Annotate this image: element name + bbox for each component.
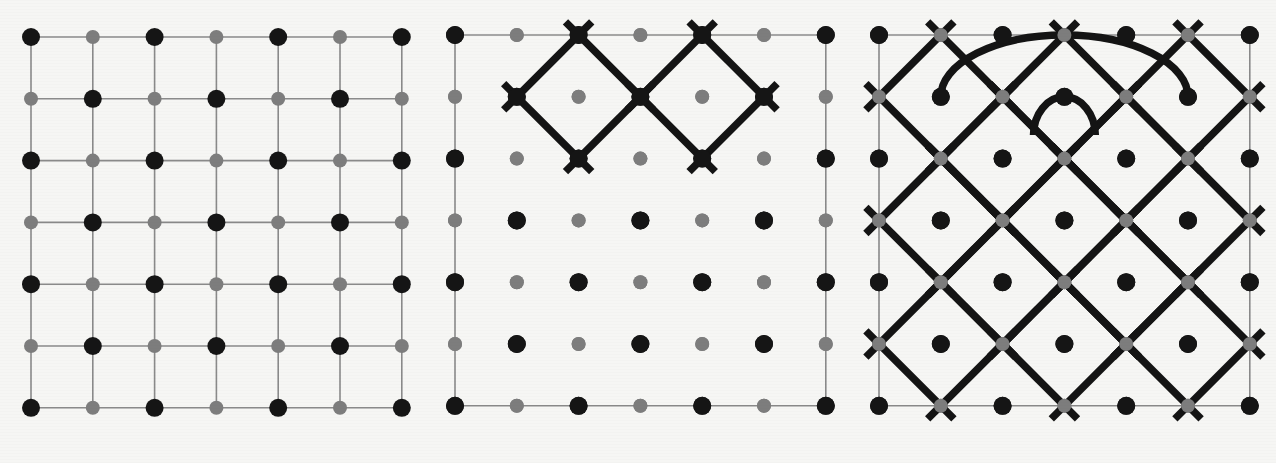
- black-vertex-overlay: [1117, 150, 1135, 168]
- black-vertex-overlay: [1241, 397, 1259, 415]
- gray-vertex: [86, 401, 100, 415]
- gray-vertex-overlay: [1243, 90, 1257, 104]
- gray-vertex-overlay: [633, 275, 647, 289]
- gray-vertex-overlay: [819, 213, 833, 227]
- black-vertex-overlay: [446, 150, 464, 168]
- gray-vertex: [333, 30, 347, 44]
- gray-vertex: [271, 339, 285, 353]
- gray-vertex-overlay: [1181, 399, 1195, 413]
- panel-dense-lattice-with-arcs: [850, 0, 1276, 463]
- black-vertex-overlay: [1117, 273, 1135, 291]
- black-vertex-overlay: [693, 150, 711, 168]
- black-vertex-overlay: [817, 150, 835, 168]
- black-vertex-overlay: [1241, 26, 1259, 44]
- gray-vertex-overlay: [572, 213, 586, 227]
- gray-vertex-overlay: [996, 337, 1010, 351]
- black-vertex-overlay: [508, 88, 526, 106]
- black-vertex-overlay: [994, 273, 1012, 291]
- gray-vertex: [209, 30, 223, 44]
- gray-vertex-overlay: [448, 337, 462, 351]
- gray-vertex-overlay: [819, 90, 833, 104]
- gray-vertex-overlay: [934, 28, 948, 42]
- black-vertex-overlay: [570, 26, 588, 44]
- panel-b-canvas: [430, 0, 850, 463]
- gray-vertex-overlay: [1057, 275, 1071, 289]
- black-vertex: [393, 275, 411, 293]
- gray-vertex-overlay: [633, 399, 647, 413]
- gray-vertex-overlay: [510, 152, 524, 166]
- gray-vertex: [271, 92, 285, 106]
- black-vertex-overlay: [1055, 88, 1073, 106]
- panel-full-square-grid: [0, 0, 430, 463]
- black-vertex-overlay: [817, 26, 835, 44]
- black-vertex: [269, 152, 287, 170]
- black-vertex: [207, 337, 225, 355]
- gray-vertex-overlay: [695, 337, 709, 351]
- black-vertex-overlay: [817, 273, 835, 291]
- gray-vertex: [395, 215, 409, 229]
- black-vertex-overlay: [1241, 273, 1259, 291]
- gray-vertex-overlay: [633, 28, 647, 42]
- black-vertex-overlay: [570, 273, 588, 291]
- gray-vertex: [271, 215, 285, 229]
- black-vertex-overlay: [1179, 88, 1197, 106]
- gray-vertex-overlay: [872, 337, 886, 351]
- gray-vertex-overlay: [1181, 28, 1195, 42]
- gray-vertex-overlay: [633, 152, 647, 166]
- black-vertex-overlay: [693, 397, 711, 415]
- black-vertex: [269, 28, 287, 46]
- gray-vertex-overlay: [510, 399, 524, 413]
- black-vertex: [22, 399, 40, 417]
- gray-vertex: [333, 154, 347, 168]
- gray-vertex: [148, 92, 162, 106]
- gray-vertex: [24, 92, 38, 106]
- black-vertex: [269, 399, 287, 417]
- black-vertex-overlay: [1117, 397, 1135, 415]
- gray-vertex-overlay: [757, 399, 771, 413]
- black-vertex-overlay: [870, 26, 888, 44]
- gray-vertex-overlay: [448, 213, 462, 227]
- black-vertex-overlay: [870, 150, 888, 168]
- outer-arc: [941, 35, 1188, 97]
- panel-two-small-loops: [430, 0, 850, 463]
- gray-vertex: [86, 30, 100, 44]
- black-vertex: [84, 90, 102, 108]
- dense-lattice-with-arcs-vertices-overlay: [870, 26, 1259, 415]
- gray-vertex: [209, 154, 223, 168]
- gray-vertex-overlay: [572, 90, 586, 104]
- black-vertex-overlay: [870, 273, 888, 291]
- gray-vertex-overlay: [1181, 152, 1195, 166]
- black-vertex-overlay: [570, 397, 588, 415]
- black-vertex: [207, 90, 225, 108]
- black-vertex-overlay: [817, 397, 835, 415]
- gray-vertex-overlay: [1057, 28, 1071, 42]
- gray-vertex-overlay: [1119, 213, 1133, 227]
- gray-vertex: [395, 339, 409, 353]
- black-vertex-overlay: [932, 88, 950, 106]
- black-vertex-overlay: [508, 335, 526, 353]
- gray-vertex-overlay: [510, 28, 524, 42]
- gray-vertex-overlay: [757, 152, 771, 166]
- black-vertex: [393, 152, 411, 170]
- black-vertex-overlay: [1055, 211, 1073, 229]
- black-vertex-overlay: [755, 211, 773, 229]
- gray-vertex: [24, 339, 38, 353]
- black-vertex: [146, 152, 164, 170]
- black-vertex-overlay: [755, 88, 773, 106]
- black-vertex: [84, 213, 102, 231]
- black-vertex-overlay: [508, 211, 526, 229]
- black-vertex: [269, 275, 287, 293]
- black-vertex-overlay: [755, 335, 773, 353]
- lattice-figure: [0, 0, 1276, 463]
- gray-vertex-overlay: [934, 275, 948, 289]
- gray-vertex: [209, 277, 223, 291]
- gray-vertex-overlay: [1119, 337, 1133, 351]
- gray-vertex: [395, 92, 409, 106]
- gray-vertex-overlay: [1119, 90, 1133, 104]
- black-vertex: [22, 152, 40, 170]
- gray-vertex: [209, 401, 223, 415]
- gray-vertex-overlay: [1181, 275, 1195, 289]
- panel-c-canvas: [850, 0, 1276, 463]
- black-vertex-overlay: [446, 26, 464, 44]
- black-vertex: [146, 399, 164, 417]
